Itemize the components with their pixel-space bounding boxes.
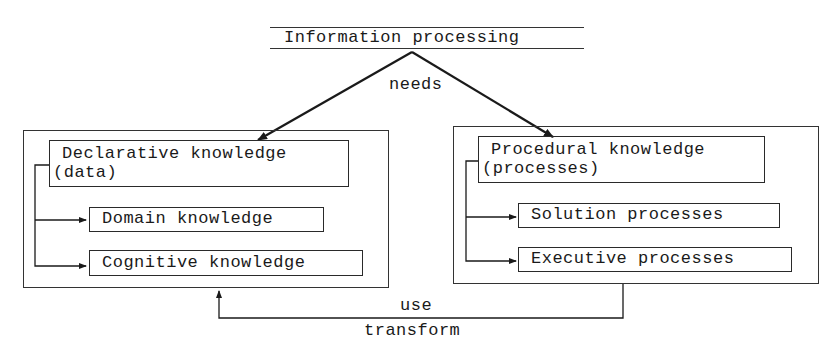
executive-processes-node: Executive processes	[518, 247, 792, 272]
declarative-subtitle: (data)	[53, 163, 117, 183]
transform-label: transform	[364, 321, 460, 341]
use-label: use	[400, 296, 432, 316]
executive-processes-label: Executive processes	[531, 249, 734, 269]
declarative-node: Declarative knowledge (data)	[49, 140, 349, 187]
solution-processes-label: Solution processes	[531, 205, 724, 225]
cognitive-knowledge-label: Cognitive knowledge	[102, 253, 305, 273]
procedural-title: Procedural knowledge	[491, 140, 705, 160]
domain-knowledge-label: Domain knowledge	[102, 209, 273, 229]
procedural-node: Procedural knowledge (processes)	[478, 136, 765, 183]
root-label: Information processing	[284, 28, 519, 48]
domain-knowledge-node: Domain knowledge	[89, 207, 324, 232]
needs-label: needs	[389, 75, 443, 95]
root-node: Information processing	[270, 27, 584, 49]
arrow-to-declarative	[258, 52, 412, 140]
cognitive-knowledge-node: Cognitive knowledge	[89, 250, 363, 276]
declarative-title: Declarative knowledge	[62, 144, 287, 164]
procedural-subtitle: (processes)	[482, 159, 600, 179]
solution-processes-node: Solution processes	[518, 203, 780, 228]
